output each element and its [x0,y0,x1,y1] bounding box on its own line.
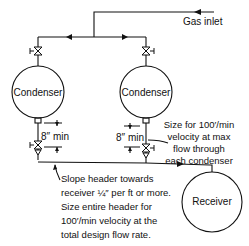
right-dim-arrow-bottom [128,147,132,151]
right-note-line: Size for 100′/min [164,119,234,130]
left-inlet-valve-icon [30,47,42,55]
condenser-left-label: Condenser [14,87,64,98]
bottom-note-line: total design flow rate. [61,229,151,240]
left-drain-valve-icon [30,141,42,155]
bottom-note-line: Size entire header for [61,201,152,212]
piping-diagram: Gas inlet Condenser Condenser Receiver 8… [0,0,249,246]
header-arrow-left [66,34,72,40]
right-note-line: velocity at max [168,131,231,142]
right-min-dim-bottom [124,147,140,153]
header-arrow-right [122,34,128,40]
left-drain-outlet [35,118,41,123]
bottom-note-line: receiver ¼″ per ft or more. [61,187,171,198]
right-min-dim-top [124,123,140,129]
right-note-line: flow through [173,143,225,154]
bottom-note-line: 100′/min velocity at the [61,215,157,226]
min-left-label: 8″ min [41,131,69,142]
right-note: Size for 100′/min velocity at max flow t… [164,119,234,166]
right-drain-valve-icon [142,144,154,158]
min-right-label: 8″ min [116,132,144,143]
right-dim-arrow-top [128,125,132,129]
condenser-right-label: Condenser [122,87,172,98]
receiver-label: Receiver [192,196,232,207]
right-drain-outlet [143,118,149,123]
right-inlet-valve-icon [142,47,154,55]
left-min-dim-top [44,120,62,126]
left-dim-arrow-bottom [55,147,59,151]
gas-inlet-arrow [194,9,201,15]
right-note-line: each condenser [165,155,233,166]
right-note-leader [148,140,168,143]
left-min-dim-bottom [44,147,62,153]
gas-inlet-label: Gas inlet [183,16,223,27]
left-dim-arrow-top [55,122,59,126]
bottom-leader-arrow [53,164,57,170]
bottom-note: Slope header towards receiver ¼″ per ft … [61,173,171,240]
bottom-note-line: Slope header towards [61,173,154,184]
